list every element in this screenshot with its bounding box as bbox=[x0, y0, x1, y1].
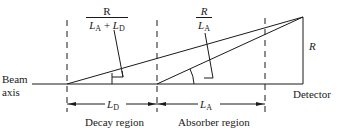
absorber-length-label: LA bbox=[200, 98, 212, 114]
la-subscript: A bbox=[204, 24, 210, 33]
decay-angle-numerator: R bbox=[86, 5, 128, 17]
absorber-angle-numerator: R bbox=[196, 5, 212, 17]
plus-operator: + bbox=[104, 19, 110, 31]
detector-label: Detector bbox=[293, 88, 331, 100]
absorber-angle-fraction: R LA bbox=[196, 5, 212, 35]
height-label: R bbox=[309, 40, 316, 52]
decay-region-label: Decay region bbox=[85, 116, 144, 128]
ld-subscript: D bbox=[119, 24, 125, 33]
arrowhead-absorber-right bbox=[256, 102, 264, 106]
absorber-angle-leader bbox=[205, 33, 213, 78]
ray-from-absorber-start bbox=[157, 17, 303, 84]
arrowhead-decay-right bbox=[148, 102, 156, 106]
ld-subscript: D bbox=[113, 103, 119, 112]
decay-right-angle bbox=[112, 71, 123, 77]
beam-axis-label-line2: axis bbox=[2, 86, 28, 99]
absorber-angle-arc bbox=[190, 69, 194, 84]
la-subscript: A bbox=[95, 24, 101, 33]
decay-angle-denominator: LA + LD bbox=[86, 17, 128, 35]
beam-axis-label-line1: Beam bbox=[2, 73, 28, 86]
absorber-angle-denominator: LA bbox=[196, 17, 212, 35]
arrowhead-decay-left bbox=[68, 102, 76, 106]
absorber-region-label: Absorber region bbox=[178, 116, 250, 128]
decay-length-label: LD bbox=[107, 98, 119, 114]
la-subscript: A bbox=[206, 103, 212, 112]
decay-angle-fraction: R LA + LD bbox=[86, 5, 128, 35]
beam-axis-label: Beam axis bbox=[2, 73, 28, 99]
arrowhead-absorber-left bbox=[158, 102, 166, 106]
beam-geometry-diagram bbox=[0, 0, 338, 136]
